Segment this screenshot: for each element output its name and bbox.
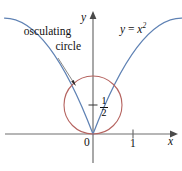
equation-exponent: 2 <box>142 21 146 30</box>
x-tick-label-1: 1 <box>130 138 136 150</box>
radius-fraction-label: 1 2 <box>100 96 108 118</box>
annotation-label-line1: osculating <box>14 26 81 38</box>
y-axis-label: y <box>81 12 86 24</box>
curve-equation-label: y = x2 <box>120 22 146 35</box>
fraction-denominator: 2 <box>100 108 108 118</box>
x-axis-label: x <box>168 136 173 148</box>
y-axis-arrowhead <box>90 11 97 19</box>
equation-equals: = <box>125 23 137 35</box>
origin-label: 0 <box>84 137 90 149</box>
fraction-numerator: 1 <box>100 96 108 106</box>
annotation-label-line2: circle <box>14 41 81 53</box>
osculating-circle-figure: osculating circle y = x2 y x 0 1 1 2 <box>0 0 182 171</box>
